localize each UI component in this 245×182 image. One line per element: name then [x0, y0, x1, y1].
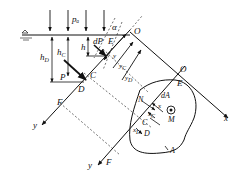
label-hc: hC [57, 47, 67, 58]
p-force-arrow [64, 60, 86, 80]
water-level-icon [22, 30, 28, 33]
label-h: h [81, 42, 86, 52]
label-e-right: E [176, 78, 183, 88]
label-x-axis: x [223, 113, 228, 123]
label-pa: pₐ [71, 14, 80, 24]
label-d-top: D [77, 84, 85, 94]
label-m: M [167, 115, 176, 124]
label-xd: xD [132, 126, 141, 135]
label-d-plane: D [143, 129, 150, 138]
label-a: A [169, 146, 175, 155]
label-yd-dim: yD [124, 74, 133, 83]
da-center-icon [170, 109, 173, 112]
label-f-left: F [56, 97, 63, 107]
label-y-left: y [32, 120, 37, 130]
label-c-top: C [90, 70, 97, 80]
label-o-top: O [134, 26, 141, 36]
label-yc-dim: yC [118, 62, 127, 71]
label-alpha: α [112, 22, 117, 32]
hydrostatic-diagram: pₐ α y yC yD h hC hD dP E P C D O O [0, 0, 245, 182]
label-n: N [137, 95, 144, 104]
label-hd: hD [40, 52, 50, 63]
label-xc: xC [147, 110, 156, 119]
label-e-top: E [107, 36, 114, 46]
label-f-bottom: F [105, 157, 112, 167]
diagram-canvas: pₐ α y yC yD h hC hD dP E P C D O O [0, 0, 245, 182]
label-da: dA [161, 91, 170, 100]
label-y-dim: y [112, 52, 117, 60]
label-o-right: O [180, 64, 187, 74]
label-dp: dP [93, 36, 104, 46]
label-c-plane: C [142, 118, 148, 127]
label-p: P [59, 72, 66, 82]
x-axis [130, 32, 228, 118]
label-x-dim: x [157, 102, 162, 110]
label-y-bottom: y [87, 160, 92, 170]
